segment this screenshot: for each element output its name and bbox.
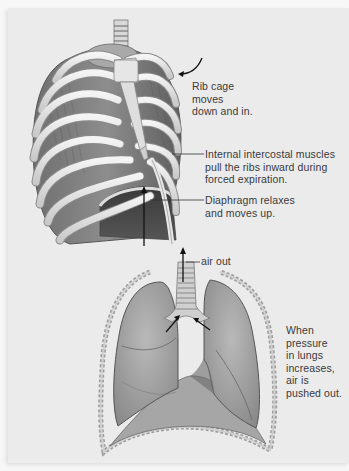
lungs-illustration — [101, 247, 275, 452]
diaphragm-label: Diaphragm relaxes and moves up. — [205, 194, 295, 219]
ribcage-label: Rib cage moves down and in. — [192, 80, 253, 118]
intercostal-muscles-label: Internal intercostal muscles pull the ri… — [205, 148, 335, 186]
lung-pressure-label: When pressure in lungs increases, air is… — [286, 324, 342, 399]
anatomy-illustration — [0, 0, 349, 471]
rib-cage-illustration — [33, 20, 204, 246]
air-out-label: air out — [201, 255, 231, 268]
